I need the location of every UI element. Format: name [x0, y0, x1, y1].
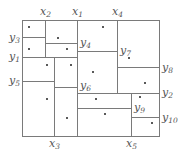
label-y2: y2 [161, 86, 173, 100]
coordinate-labels: x2x1x4y3y4y1y7y8y5y6y2y9y10x3x5 [8, 5, 178, 151]
dividing-lines [23, 21, 160, 137]
point [28, 26, 30, 28]
label-y10: y10 [161, 111, 178, 125]
label-y8: y8 [161, 61, 173, 75]
point [139, 96, 141, 98]
point [66, 117, 68, 119]
point [151, 122, 153, 124]
point [95, 98, 97, 100]
point [92, 71, 94, 73]
label-x3: x3 [49, 137, 60, 151]
label-y4: y4 [79, 36, 91, 50]
point [46, 64, 48, 66]
point [66, 48, 68, 50]
label-y9: y9 [133, 101, 145, 115]
point [46, 98, 48, 100]
label-y5: y5 [8, 74, 20, 88]
label-x5: x5 [126, 137, 137, 151]
label-x1: x1 [72, 5, 83, 19]
label-x2: x2 [40, 5, 51, 19]
point [102, 26, 104, 28]
label-y1: y1 [8, 50, 20, 64]
point [104, 113, 106, 115]
label-y6: y6 [79, 79, 91, 93]
point [28, 48, 30, 50]
label-y3: y3 [8, 31, 20, 45]
point [144, 82, 146, 84]
point [70, 64, 72, 66]
subdivision-diagram: x2x1x4y3y4y1y7y8y5y6y2y9y10x3x5 [0, 0, 184, 157]
label-y7: y7 [119, 44, 131, 58]
point [57, 37, 59, 39]
label-x4: x4 [112, 5, 123, 19]
